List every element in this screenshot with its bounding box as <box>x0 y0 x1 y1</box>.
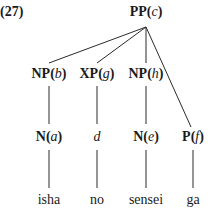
paren-close: ) <box>154 129 159 144</box>
word-sensei: sensei <box>129 192 163 208</box>
node-category: XP <box>79 66 98 81</box>
paren-close: ) <box>158 4 163 19</box>
node-np-b: NP(b) <box>31 66 66 82</box>
node-np-h: NP(h) <box>128 66 163 82</box>
tree-edges <box>0 0 213 211</box>
edge-pp-to-np-b <box>49 27 146 63</box>
node-d: d <box>94 129 101 145</box>
node-n-e: N(e) <box>133 129 159 145</box>
word-ga: ga <box>186 192 199 208</box>
node-variable: a <box>51 129 58 144</box>
node-p-f: P(f) <box>182 129 204 145</box>
example-number: (27) <box>0 4 23 20</box>
word-isha: isha <box>38 192 61 208</box>
node-category: NP <box>128 66 147 81</box>
paren-close: ) <box>110 66 115 81</box>
node-n-a: N(a) <box>36 129 62 145</box>
node-category: NP <box>31 66 50 81</box>
paren-close: ) <box>58 129 63 144</box>
node-xp-g: XP(g) <box>79 66 114 82</box>
syntax-tree-diagram: (27) PP(c) NP(b) XP(g) NP(h) N(a) d N(e)… <box>0 0 213 211</box>
node-category: PP <box>130 4 147 19</box>
node-category: N <box>36 129 46 144</box>
edge-pp-to-xp-g <box>97 27 146 63</box>
node-variable: d <box>94 129 101 144</box>
word-no: no <box>90 192 104 208</box>
node-category: N <box>133 129 143 144</box>
node-category: P <box>182 129 191 144</box>
node-root-pp: PP(c) <box>130 4 163 20</box>
paren-close: ) <box>199 129 204 144</box>
paren-close: ) <box>62 66 67 81</box>
paren-close: ) <box>159 66 164 81</box>
